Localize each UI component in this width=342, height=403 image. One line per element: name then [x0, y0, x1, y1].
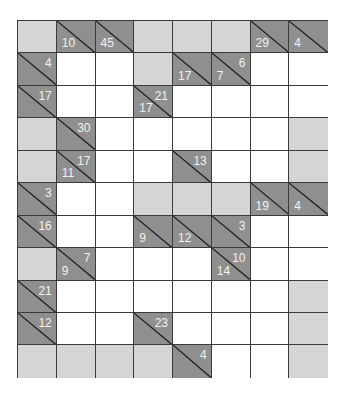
across-clue-number: 4	[200, 349, 207, 361]
entry-cell[interactable]	[251, 53, 290, 85]
down-clue-number: 9	[139, 232, 146, 244]
entry-cell[interactable]	[212, 118, 251, 150]
entry-cell[interactable]	[57, 53, 96, 85]
entry-cell[interactable]	[96, 53, 135, 85]
blocked-cell	[134, 183, 173, 215]
clue-cell: 17	[18, 86, 57, 118]
clue-cell: 21	[18, 281, 57, 313]
entry-cell[interactable]	[212, 345, 251, 377]
blocked-cell	[134, 21, 173, 53]
down-clue-number: 14	[217, 265, 230, 277]
entry-cell[interactable]	[96, 281, 135, 313]
entry-cell[interactable]	[96, 313, 135, 345]
entry-cell[interactable]	[57, 313, 96, 345]
blocked-cell	[18, 118, 57, 150]
clue-cell: 4	[289, 21, 328, 53]
across-clue-number: 13	[193, 155, 206, 167]
entry-cell[interactable]	[173, 118, 212, 150]
clue-cell: 17	[173, 53, 212, 85]
blocked-cell	[289, 151, 328, 183]
clue-cell: 13	[173, 151, 212, 183]
clue-cell: 3	[212, 216, 251, 248]
entry-cell[interactable]	[251, 216, 290, 248]
entry-cell[interactable]	[289, 86, 328, 118]
blocked-cell	[18, 345, 57, 377]
entry-cell[interactable]	[251, 345, 290, 377]
entry-cell[interactable]	[251, 248, 290, 280]
blocked-cell	[173, 21, 212, 53]
entry-cell[interactable]	[134, 118, 173, 150]
entry-cell[interactable]	[173, 86, 212, 118]
clue-cell: 1721	[134, 86, 173, 118]
entry-cell[interactable]	[289, 216, 328, 248]
down-clue-number: 11	[62, 167, 74, 179]
clue-cell: 4	[289, 183, 328, 215]
entry-cell[interactable]	[173, 248, 212, 280]
across-clue-number: 7	[84, 252, 91, 264]
blocked-cell	[289, 281, 328, 313]
blocked-cell	[134, 345, 173, 377]
entry-cell[interactable]	[212, 313, 251, 345]
across-clue-number: 21	[38, 285, 51, 297]
entry-cell[interactable]	[251, 281, 290, 313]
entry-cell[interactable]	[289, 53, 328, 85]
entry-cell[interactable]	[289, 248, 328, 280]
entry-cell[interactable]	[57, 86, 96, 118]
clue-cell: 9	[134, 216, 173, 248]
across-clue-number: 17	[77, 155, 90, 167]
across-clue-number: 21	[155, 90, 168, 102]
clue-cell: 19	[251, 183, 290, 215]
entry-cell[interactable]	[96, 151, 135, 183]
blocked-cell	[173, 183, 212, 215]
entry-cell[interactable]	[57, 183, 96, 215]
down-clue-number: 7	[217, 70, 224, 82]
down-clue-number: 45	[101, 37, 114, 49]
entry-cell[interactable]	[57, 281, 96, 313]
entry-cell[interactable]	[134, 281, 173, 313]
entry-cell[interactable]	[251, 151, 290, 183]
kakuro-board: 1045294417761717213011171331941691239714…	[17, 20, 328, 378]
clue-cell: 10	[57, 21, 96, 53]
across-clue-number: 3	[45, 187, 52, 199]
clue-cell: 1117	[57, 151, 96, 183]
entry-cell[interactable]	[212, 281, 251, 313]
entry-cell[interactable]	[173, 313, 212, 345]
clue-cell: 12	[173, 216, 212, 248]
down-clue-number: 19	[256, 200, 269, 212]
clue-cell: 16	[18, 216, 57, 248]
across-clue-number: 30	[77, 122, 90, 134]
blocked-cell	[289, 345, 328, 377]
entry-cell[interactable]	[96, 183, 135, 215]
clue-cell: 76	[212, 53, 251, 85]
down-clue-number: 4	[294, 37, 301, 49]
clue-cell: 3	[18, 183, 57, 215]
entry-cell[interactable]	[96, 216, 135, 248]
entry-cell[interactable]	[57, 216, 96, 248]
down-clue-number: 17	[178, 70, 191, 82]
entry-cell[interactable]	[96, 86, 135, 118]
entry-cell[interactable]	[212, 151, 251, 183]
entry-cell[interactable]	[251, 118, 290, 150]
entry-cell[interactable]	[251, 86, 290, 118]
entry-cell[interactable]	[251, 313, 290, 345]
blocked-cell	[289, 313, 328, 345]
down-clue-number: 29	[256, 37, 269, 49]
blocked-cell	[18, 248, 57, 280]
across-clue-number: 17	[38, 90, 51, 102]
blocked-cell	[57, 345, 96, 377]
across-clue-number: 16	[38, 220, 51, 232]
blocked-cell	[96, 345, 135, 377]
entry-cell[interactable]	[96, 118, 135, 150]
clue-cell: 29	[251, 21, 290, 53]
entry-cell[interactable]	[212, 86, 251, 118]
blocked-cell	[289, 118, 328, 150]
clue-cell: 23	[134, 313, 173, 345]
down-clue-number: 17	[139, 102, 152, 114]
entry-cell[interactable]	[173, 281, 212, 313]
clue-cell: 1410	[212, 248, 251, 280]
entry-cell[interactable]	[96, 248, 135, 280]
blocked-cell	[212, 21, 251, 53]
blocked-cell	[212, 183, 251, 215]
entry-cell[interactable]	[134, 151, 173, 183]
entry-cell[interactable]	[134, 248, 173, 280]
